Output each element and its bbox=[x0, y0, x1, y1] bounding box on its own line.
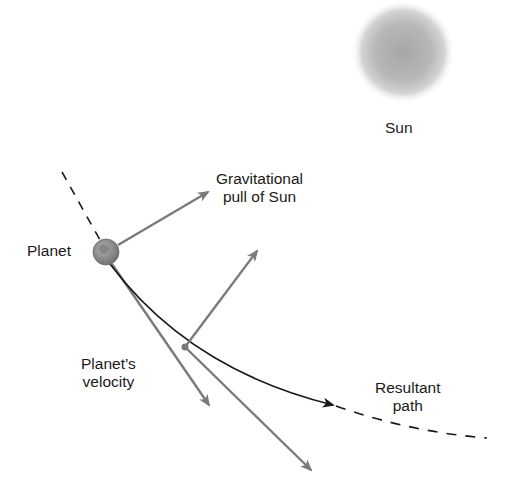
velocity-arrow-2 bbox=[185, 347, 311, 470]
resultant-path-label-line2: path bbox=[375, 397, 440, 415]
orbit-diagram bbox=[0, 0, 514, 499]
planet-velocity-label-line2: velocity bbox=[81, 373, 136, 391]
planet-velocity-label-line1: Planet’s bbox=[81, 355, 136, 373]
midpoint-marker bbox=[182, 344, 189, 351]
planet-velocity-label: Planet’s velocity bbox=[81, 355, 136, 391]
gravity-arrow-1 bbox=[118, 192, 208, 245]
sun-label: Sun bbox=[385, 119, 413, 137]
gravity-arrow-2 bbox=[185, 251, 257, 347]
sun bbox=[351, 0, 455, 104]
gravitational-pull-label-line2: pull of Sun bbox=[216, 188, 303, 206]
planet-label: Planet bbox=[27, 242, 71, 260]
gravitational-pull-label: Gravitational pull of Sun bbox=[216, 170, 303, 206]
sun-disc bbox=[351, 0, 455, 104]
planet bbox=[93, 239, 119, 265]
prior-orbit-dashed-line bbox=[62, 172, 100, 240]
gravitational-pull-label-line1: Gravitational bbox=[216, 170, 303, 188]
resultant-path-label-line1: Resultant bbox=[375, 379, 440, 397]
resultant-path-label: Resultant path bbox=[375, 379, 440, 415]
